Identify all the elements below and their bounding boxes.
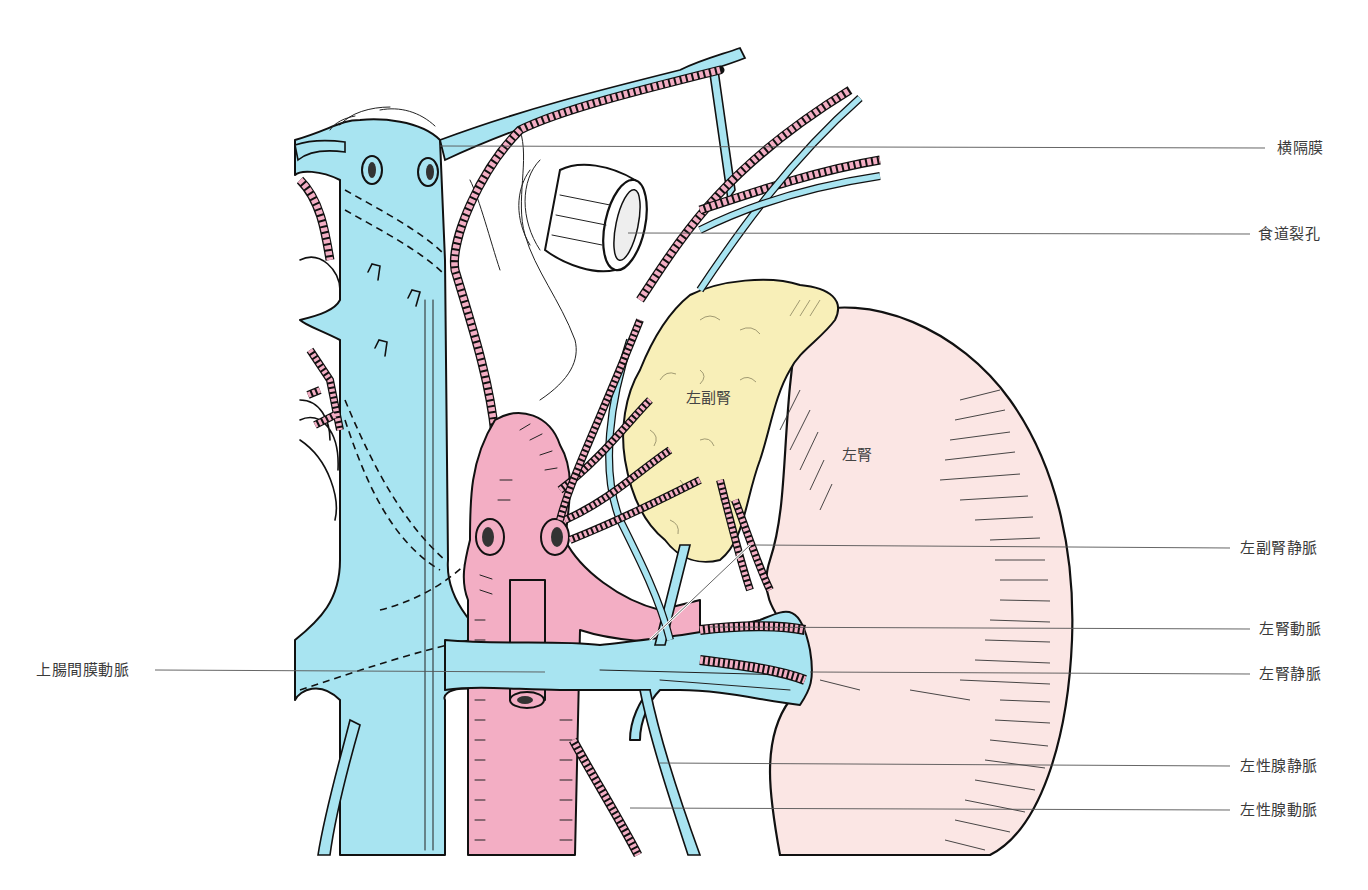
label-left-renal-artery: 左腎動脈 xyxy=(1259,620,1321,638)
superior-adrenal-vessels xyxy=(640,90,880,300)
label-left-gonadal-artery: 左性腺動脈 xyxy=(1240,801,1318,819)
left-kidney xyxy=(766,308,1072,855)
label-left-renal-vein: 左腎静脈 xyxy=(1259,665,1321,683)
left-gonadal-artery xyxy=(573,740,638,855)
anatomy-illustration xyxy=(0,0,1368,890)
label-left-adrenal-vein: 左副腎静脈 xyxy=(1240,539,1318,557)
label-superior-mesenteric-artery: 上腸間膜動脈 xyxy=(36,661,129,679)
label-diaphragm: 横隔膜 xyxy=(1277,139,1324,157)
left-gonadal-vein xyxy=(640,690,700,855)
esophageal-hiatus xyxy=(519,160,654,274)
label-left-gonadal-vein: 左性腺静脈 xyxy=(1240,757,1318,775)
adrenal-label: 左副腎 xyxy=(686,386,731,407)
kidney-label: 左腎 xyxy=(842,443,872,464)
label-esophageal-hiatus: 食道裂孔 xyxy=(1258,225,1320,243)
